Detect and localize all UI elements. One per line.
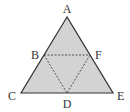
vertex-label-e: E [117, 89, 124, 103]
vertex-label-b: B [31, 48, 39, 62]
vertex-label-c: C [8, 89, 16, 103]
vertex-label-d: D [63, 97, 72, 111]
triangle-diagram: ABCDEF [0, 0, 130, 112]
vertex-label-a: A [63, 2, 72, 16]
vertex-label-f: F [95, 48, 102, 62]
